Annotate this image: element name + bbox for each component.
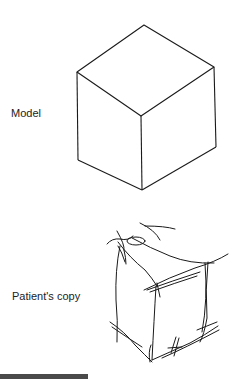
model-cube <box>77 25 216 190</box>
cube-drawings <box>0 0 248 379</box>
patients-copy-cube <box>107 223 228 362</box>
bottom-bar <box>0 374 88 379</box>
